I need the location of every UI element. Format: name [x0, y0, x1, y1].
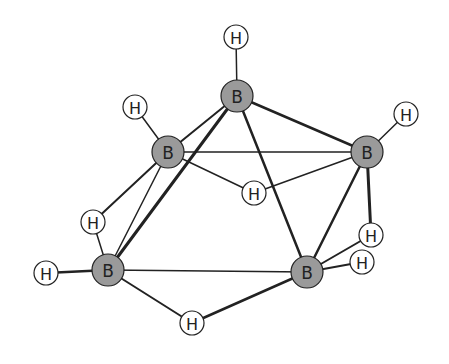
- hydrogen-atom: H: [242, 181, 266, 205]
- atom-label: B: [301, 263, 313, 283]
- atom-label: B: [361, 143, 373, 163]
- boron-atom: B: [351, 136, 383, 168]
- hydrogen-atom: H: [394, 102, 418, 126]
- bond-b2-b4: [108, 152, 168, 270]
- atom-label: B: [102, 261, 114, 281]
- boron-atom: B: [92, 254, 124, 286]
- hydrogen-atom: H: [81, 210, 105, 234]
- atom-label: H: [248, 185, 260, 204]
- bond-b1-b4: [108, 96, 237, 270]
- bond-b4-b5: [108, 270, 307, 272]
- atom-label: H: [87, 214, 99, 233]
- atom-label: H: [40, 265, 52, 284]
- hydrogen-atom: H: [123, 95, 147, 119]
- boron-atom: B: [221, 80, 253, 112]
- hydrogen-atom: H: [359, 223, 383, 247]
- atom-label: H: [129, 99, 141, 118]
- hydrogen-atom: H: [34, 261, 58, 285]
- hydrogen-atom: H: [350, 250, 374, 274]
- atom-label: B: [231, 87, 243, 107]
- boron-atom: B: [291, 256, 323, 288]
- atom-label: B: [162, 143, 174, 163]
- atom-label: H: [186, 315, 198, 334]
- hydrogen-atom: H: [180, 311, 204, 335]
- atom-label: H: [356, 254, 368, 273]
- atom-label: H: [365, 227, 377, 246]
- atom-label: H: [230, 29, 242, 48]
- atom-label: H: [400, 106, 412, 125]
- hydrogen-atom: H: [224, 25, 248, 49]
- molecule-diagram: BBBBBHHHHHHHHH: [0, 0, 449, 364]
- bond-h7-b5: [192, 272, 307, 323]
- boron-atom: B: [152, 136, 184, 168]
